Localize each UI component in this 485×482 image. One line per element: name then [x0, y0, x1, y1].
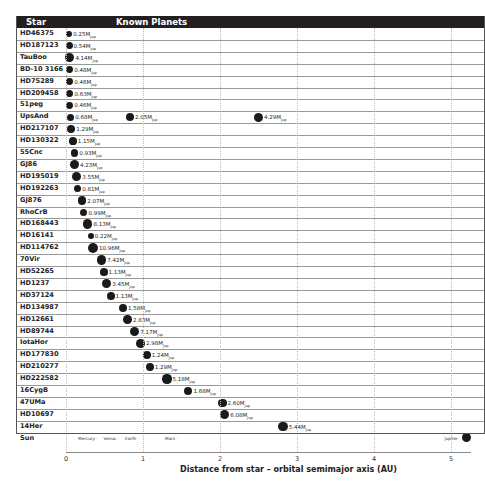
x-tick-label: 5 — [449, 455, 453, 463]
exoplanet-chart: Star Known Planets HD463750.25MJupHD1871… — [0, 0, 485, 482]
solar-planet-label: Venus · — [103, 436, 118, 441]
x-tick-label: 2 — [218, 455, 222, 463]
jupiter-dot — [462, 433, 471, 442]
sun-label: Sun — [20, 434, 34, 442]
solar-planet-label: Mercury · — [78, 436, 98, 441]
x-tick-label: 1 — [141, 455, 145, 463]
x-axis-label: Distance from star – orbital semimajor a… — [180, 465, 397, 474]
x-tick-label: 3 — [295, 455, 299, 463]
table-frame — [16, 16, 485, 434]
solar-planet-label: Mars · — [165, 436, 178, 441]
solar-planet-label: Earth · — [125, 436, 139, 441]
x-tick-label: 0 — [64, 455, 68, 463]
x-tick-label: 4 — [372, 455, 376, 463]
x-axis — [66, 452, 471, 453]
